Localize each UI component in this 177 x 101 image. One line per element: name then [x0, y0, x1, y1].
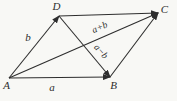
- label-a: a: [49, 81, 55, 93]
- label-a-plus-b: a+b: [90, 19, 109, 35]
- vector-edge-A-B: [9, 77, 110, 78]
- diagram-canvas: ABCDaba+ba−b: [0, 0, 177, 101]
- vertex-label-B: B: [110, 79, 117, 91]
- vertex-label-D: D: [52, 0, 61, 12]
- label-b: b: [25, 31, 31, 43]
- vertex-label-C: C: [161, 3, 169, 15]
- vector-edge-B-C: [110, 13, 158, 77]
- vector-edge-D-C: [59, 13, 158, 16]
- parallelogram-vector-figure: ABCDaba+ba−b: [0, 0, 177, 101]
- vertex-label-A: A: [2, 79, 10, 91]
- vector-edge-A-D: [9, 16, 59, 78]
